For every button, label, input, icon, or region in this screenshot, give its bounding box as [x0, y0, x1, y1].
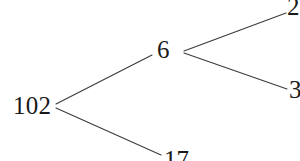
node-leaf-3: 3 [289, 77, 300, 102]
edge-six-to-two [184, 13, 286, 51]
node-leaf-17: 17 [164, 147, 189, 161]
factor-tree-figure: 102 6 17 2 3 [0, 0, 300, 161]
tree-edges-canvas [0, 0, 300, 161]
edge-root-to-seventeen [56, 108, 161, 155]
node-branch-6: 6 [157, 37, 170, 62]
edge-six-to-three [184, 53, 287, 89]
node-leaf-2: 2 [287, 0, 300, 19]
edge-root-to-six [56, 55, 152, 104]
node-root-102: 102 [13, 93, 51, 118]
